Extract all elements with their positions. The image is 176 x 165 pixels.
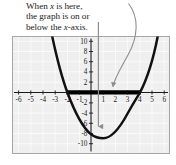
y-tick-label: -4	[81, 110, 87, 118]
y-tick-label: 6	[84, 58, 88, 66]
callout-text-3a: below the	[26, 22, 64, 32]
x-tick-label: -3	[52, 96, 58, 104]
x-tick-label: 3	[126, 96, 130, 104]
callout-text: When x is here, the graph is on or below…	[26, 1, 134, 32]
callout-text-3b: -axis.	[68, 22, 88, 32]
x-tick-label: -6	[16, 96, 22, 104]
callout-text-1a: When	[26, 1, 50, 11]
callout-line-3: below the x-axis.	[26, 22, 134, 32]
y-tick-label: -10	[78, 140, 88, 148]
x-tick-label: -5	[28, 96, 34, 104]
x-tick-label: 2	[114, 96, 118, 104]
callout-line-2: the graph is on or	[26, 11, 134, 21]
callout-text-1b: is here,	[54, 1, 82, 11]
x-tick-label: 5	[150, 96, 154, 104]
callout-line-1: When x is here,	[26, 1, 134, 11]
y-tick-label: 4	[84, 68, 88, 76]
y-tick-label: 2	[84, 79, 88, 87]
y-tick-label: -2	[81, 99, 87, 107]
y-tick-label: 8	[84, 48, 88, 56]
x-tick-label: 6	[162, 96, 166, 104]
x-tick-label: -4	[40, 96, 46, 104]
x-tick-label: 1	[101, 96, 105, 104]
y-tick-label: 10	[80, 38, 88, 46]
